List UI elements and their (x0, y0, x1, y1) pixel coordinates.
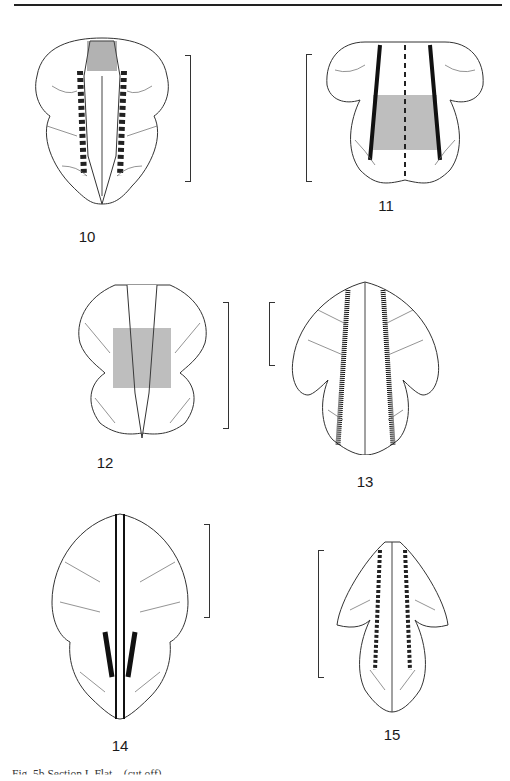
scale-bar-15 (318, 550, 324, 678)
figure-label-10: 10 (67, 228, 107, 245)
figure-label-12: 12 (85, 454, 125, 471)
scale-bar-10 (185, 55, 191, 182)
figure-11-drawing (325, 40, 485, 190)
figure-label-13: 13 (345, 473, 385, 490)
figure-14-drawing (50, 512, 190, 722)
scale-bar-12 (223, 302, 229, 429)
figure-label-11: 11 (366, 197, 406, 214)
scale-bar-14 (204, 524, 210, 618)
figure-label-15: 15 (372, 726, 412, 743)
scale-bar-11 (306, 54, 312, 182)
top-rule (14, 4, 502, 6)
scale-bar-13 (269, 302, 275, 366)
figure-caption: Fig. 5b Section I. Flat... (cut off) (12, 768, 162, 780)
figure-13-drawing (288, 280, 443, 455)
figure-10-drawing (32, 36, 172, 206)
figure-label-14: 14 (100, 737, 140, 754)
figure-15-drawing (335, 540, 450, 715)
figure-12-drawing (75, 283, 210, 438)
